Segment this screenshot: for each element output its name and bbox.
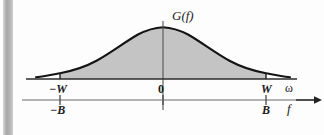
tick-label-neg-b: −B [50, 103, 65, 118]
tick-label-pos-b: B [262, 103, 270, 118]
spectrum-figure: G(f) −W 0 W ω −B B f [0, 0, 324, 135]
tick-label-origin: 0 [158, 82, 164, 97]
axis-label-omega: ω [285, 81, 293, 96]
tick-label-neg-w: −W [49, 82, 67, 97]
axis-label-frequency: f [287, 101, 291, 117]
axis-arrow-icon [296, 96, 322, 104]
spectrum-plot [0, 0, 324, 135]
curve-label-gf: G(f) [172, 8, 194, 24]
tick-label-pos-w: W [261, 82, 272, 97]
